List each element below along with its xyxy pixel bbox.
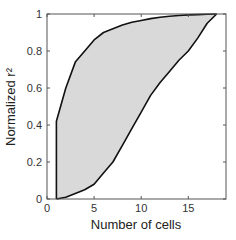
x-tick-label: 15 — [182, 202, 194, 214]
x-tick-label: 0 — [44, 202, 50, 214]
y-tick-label: 1 — [36, 8, 42, 20]
chart: 05101500.20.40.60.81 Number of cells Nor… — [0, 0, 236, 240]
shaded-band — [56, 14, 216, 199]
y-tick-label: 0.2 — [27, 156, 42, 168]
y-tick-label: 0.4 — [27, 119, 42, 131]
x-axis-label: Number of cells — [91, 217, 182, 232]
plot-area — [56, 14, 216, 199]
y-tick-label: 0.8 — [27, 45, 42, 57]
y-tick-label: 0.6 — [27, 82, 42, 94]
x-tick-label: 10 — [135, 202, 147, 214]
y-axis-label: Normalized r² — [3, 67, 18, 146]
y-tick-label: 0 — [36, 193, 42, 205]
x-tick-label: 5 — [91, 202, 97, 214]
